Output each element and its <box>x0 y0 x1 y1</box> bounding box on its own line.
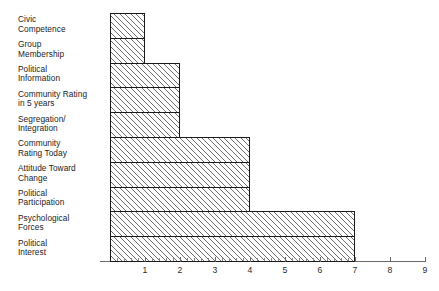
x-axis-major-tick <box>320 257 321 263</box>
bar <box>110 211 355 237</box>
x-axis-tick-label: 3 <box>205 265 225 275</box>
x-axis-minor-tick <box>229 258 230 262</box>
x-axis-tick-label: 6 <box>310 265 330 275</box>
bar <box>110 236 355 262</box>
x-axis-tick-label: 8 <box>380 265 400 275</box>
plot-area: 123456789 <box>0 0 439 291</box>
x-axis-minor-tick <box>299 258 300 262</box>
x-axis-minor-tick <box>138 258 139 262</box>
x-axis-major-tick <box>425 257 426 263</box>
x-axis-minor-tick <box>173 258 174 262</box>
x-axis-minor-tick <box>334 258 335 262</box>
horizontal-bar-chart: Civic CompetenceGroup MembershipPolitica… <box>0 0 439 291</box>
x-axis-minor-tick <box>201 258 202 262</box>
x-axis-minor-tick <box>243 258 244 262</box>
x-axis-major-tick <box>145 257 146 263</box>
x-axis-minor-tick <box>159 258 160 262</box>
x-axis-minor-tick <box>194 258 195 262</box>
bar <box>110 63 180 89</box>
bar <box>110 112 180 138</box>
bar <box>110 187 250 213</box>
x-axis-major-tick <box>390 257 391 263</box>
bar <box>110 87 180 113</box>
x-axis-minor-tick <box>222 258 223 262</box>
x-axis-minor-tick <box>124 258 125 262</box>
x-axis-major-tick <box>250 257 251 263</box>
x-axis-major-tick <box>215 257 216 263</box>
x-axis-major-tick <box>285 257 286 263</box>
x-axis-tick-label: 5 <box>275 265 295 275</box>
x-axis-minor-tick <box>327 258 328 262</box>
x-axis-minor-tick <box>278 258 279 262</box>
x-axis-minor-tick <box>236 258 237 262</box>
x-axis-minor-tick <box>131 258 132 262</box>
x-axis-major-tick <box>355 257 356 263</box>
bar <box>110 13 145 39</box>
x-axis-tick-label: 7 <box>345 265 365 275</box>
x-axis-minor-tick <box>117 258 118 262</box>
x-axis-minor-tick <box>264 258 265 262</box>
x-axis-minor-tick <box>208 258 209 262</box>
x-axis-minor-tick <box>166 258 167 262</box>
bar <box>110 38 145 64</box>
x-axis-minor-tick <box>257 258 258 262</box>
x-axis-minor-tick <box>271 258 272 262</box>
x-axis-minor-tick <box>306 258 307 262</box>
x-axis-major-tick <box>180 257 181 263</box>
x-axis-minor-tick <box>187 258 188 262</box>
x-axis-minor-tick <box>313 258 314 262</box>
x-axis-tick-label: 2 <box>170 265 190 275</box>
x-axis-minor-tick <box>152 258 153 262</box>
x-axis-tick-label: 1 <box>135 265 155 275</box>
bar <box>110 162 250 188</box>
bar <box>110 137 250 163</box>
x-axis-minor-tick <box>348 258 349 262</box>
x-axis-minor-tick <box>292 258 293 262</box>
x-axis-tick-label: 9 <box>415 265 435 275</box>
x-axis-tick-label: 4 <box>240 265 260 275</box>
x-axis-minor-tick <box>341 258 342 262</box>
